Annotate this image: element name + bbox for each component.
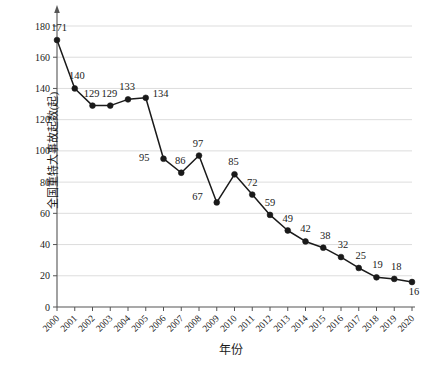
svg-text:42: 42 <box>300 223 311 234</box>
svg-text:2000: 2000 <box>41 313 62 334</box>
svg-text:2001: 2001 <box>58 313 79 334</box>
svg-text:16: 16 <box>409 286 420 297</box>
svg-text:19: 19 <box>372 259 383 270</box>
svg-text:2013: 2013 <box>271 313 292 334</box>
x-axis-title: 年份 <box>196 340 266 358</box>
svg-text:2016: 2016 <box>325 313 346 334</box>
svg-text:95: 95 <box>139 152 150 163</box>
svg-text:2009: 2009 <box>200 313 221 334</box>
svg-text:0: 0 <box>45 302 50 313</box>
svg-text:180: 180 <box>35 21 50 32</box>
svg-text:2017: 2017 <box>342 313 363 334</box>
svg-text:2005: 2005 <box>129 313 150 334</box>
svg-text:2002: 2002 <box>76 313 97 334</box>
svg-text:2014: 2014 <box>289 313 310 334</box>
gridlines <box>57 26 412 276</box>
y-axis-title: 全国重特大事故起数(起) <box>48 56 59 246</box>
svg-text:20: 20 <box>40 270 50 281</box>
svg-text:133: 133 <box>119 81 135 92</box>
svg-text:2004: 2004 <box>112 313 133 334</box>
svg-text:2007: 2007 <box>165 313 186 334</box>
svg-text:2019: 2019 <box>378 313 399 334</box>
svg-text:134: 134 <box>153 88 170 99</box>
svg-text:2003: 2003 <box>94 313 115 334</box>
svg-text:2011: 2011 <box>236 313 256 333</box>
svg-text:129: 129 <box>101 88 117 99</box>
line-chart: 020406080100120140160180 200020012002200… <box>0 0 440 366</box>
svg-text:85: 85 <box>228 156 239 167</box>
svg-text:2010: 2010 <box>218 313 239 334</box>
svg-text:67: 67 <box>192 191 203 202</box>
svg-text:2008: 2008 <box>183 313 204 334</box>
svg-text:2012: 2012 <box>254 313 275 334</box>
svg-text:2015: 2015 <box>307 313 328 334</box>
svg-text:59: 59 <box>265 197 276 208</box>
svg-text:97: 97 <box>193 138 204 149</box>
svg-text:32: 32 <box>338 239 349 250</box>
svg-text:72: 72 <box>247 177 258 188</box>
x-tick-labels: 2000200120022003200420052006200720082009… <box>41 313 417 334</box>
svg-text:140: 140 <box>69 70 85 81</box>
svg-text:171: 171 <box>51 22 67 33</box>
svg-text:49: 49 <box>283 213 294 224</box>
svg-text:38: 38 <box>320 230 331 241</box>
chart-canvas: 020406080100120140160180 200020012002200… <box>0 0 440 366</box>
svg-text:129: 129 <box>84 88 100 99</box>
data-labels: 1711401291291331349586976785725949423832… <box>51 22 419 297</box>
svg-text:86: 86 <box>175 155 186 166</box>
svg-text:2020: 2020 <box>396 313 417 334</box>
svg-text:2006: 2006 <box>147 313 168 334</box>
svg-text:2018: 2018 <box>360 313 381 334</box>
x-axis <box>57 307 415 311</box>
svg-text:18: 18 <box>391 261 402 272</box>
svg-text:25: 25 <box>356 250 367 261</box>
